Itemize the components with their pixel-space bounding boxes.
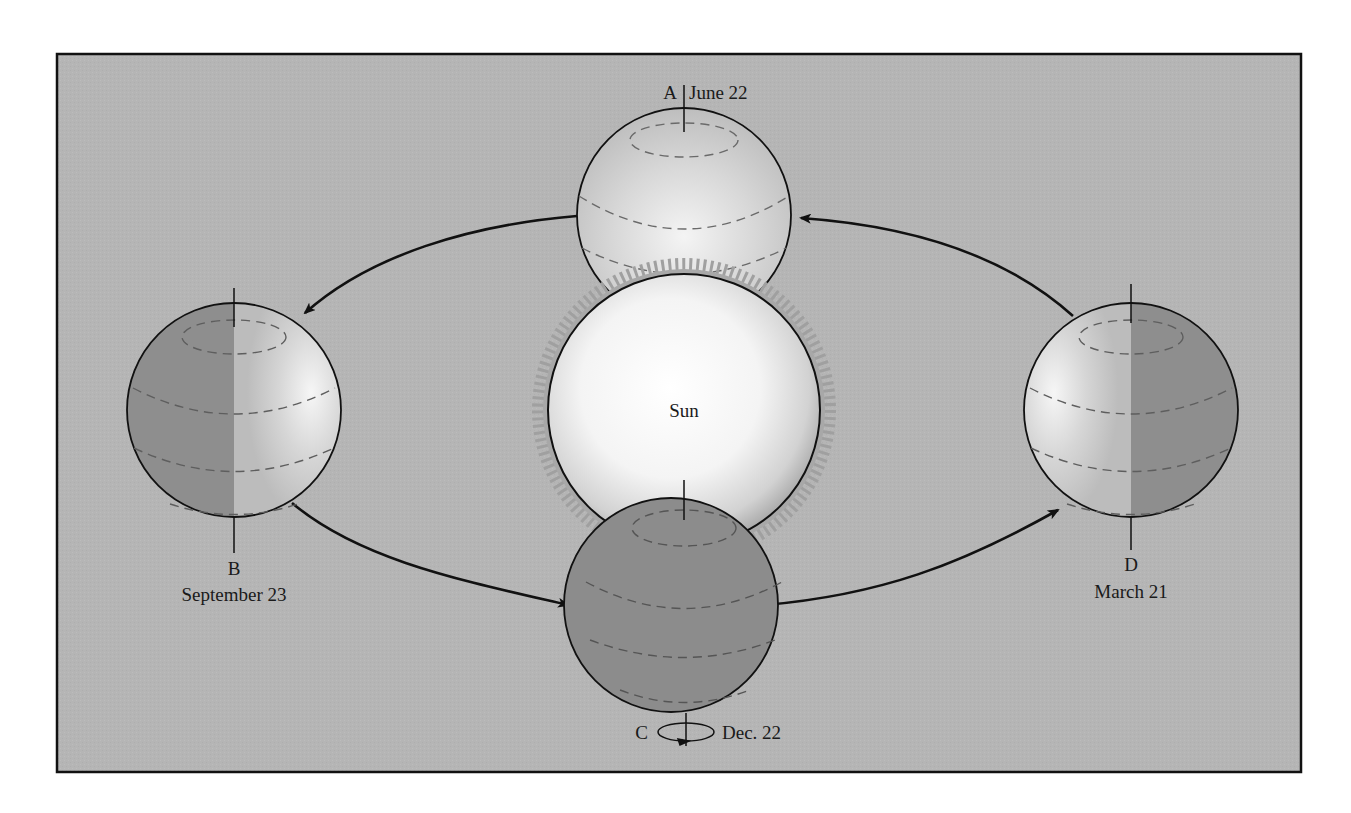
label-a-letter: A bbox=[663, 82, 677, 103]
label-c-letter: C bbox=[635, 722, 648, 743]
label-b-date: September 23 bbox=[181, 584, 286, 605]
label-c-date: Dec. 22 bbox=[722, 722, 781, 743]
label-b-letter: B bbox=[228, 558, 241, 579]
label-a-date: June 22 bbox=[689, 82, 748, 103]
label-d-date: March 21 bbox=[1094, 581, 1167, 602]
seasons-diagram: Sun bbox=[0, 0, 1351, 813]
sun-label: Sun bbox=[669, 400, 699, 421]
label-d-letter: D bbox=[1124, 554, 1138, 575]
